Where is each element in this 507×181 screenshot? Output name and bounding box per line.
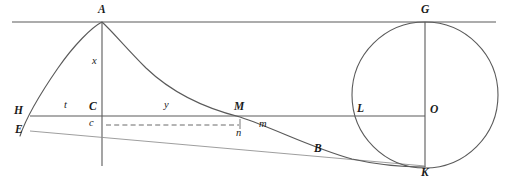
label-point-B: B — [314, 143, 322, 155]
label-point-O: O — [430, 104, 438, 116]
label-point-C: C — [89, 101, 97, 113]
geometry-diagram: A G H E C c M m n B L O K x t y — [0, 0, 507, 181]
label-point-E: E — [15, 124, 23, 136]
label-segment-y: y — [164, 100, 169, 111]
label-point-G: G — [421, 4, 429, 16]
label-segment-t: t — [64, 100, 67, 111]
label-segment-x: x — [92, 56, 97, 67]
label-point-A: A — [98, 4, 106, 16]
diagram-canvas — [0, 0, 507, 181]
descending-curve — [20, 22, 425, 167]
lines-group — [12, 22, 496, 167]
label-point-L: L — [357, 103, 364, 115]
label-point-M: M — [234, 101, 244, 113]
label-point-n-lower: n — [236, 128, 241, 139]
label-point-H: H — [14, 105, 23, 117]
label-point-K: K — [421, 167, 429, 179]
label-point-m-lower: m — [259, 119, 267, 130]
label-point-c-lower: c — [89, 118, 94, 129]
lower-line-E-to-K — [30, 131, 425, 166]
